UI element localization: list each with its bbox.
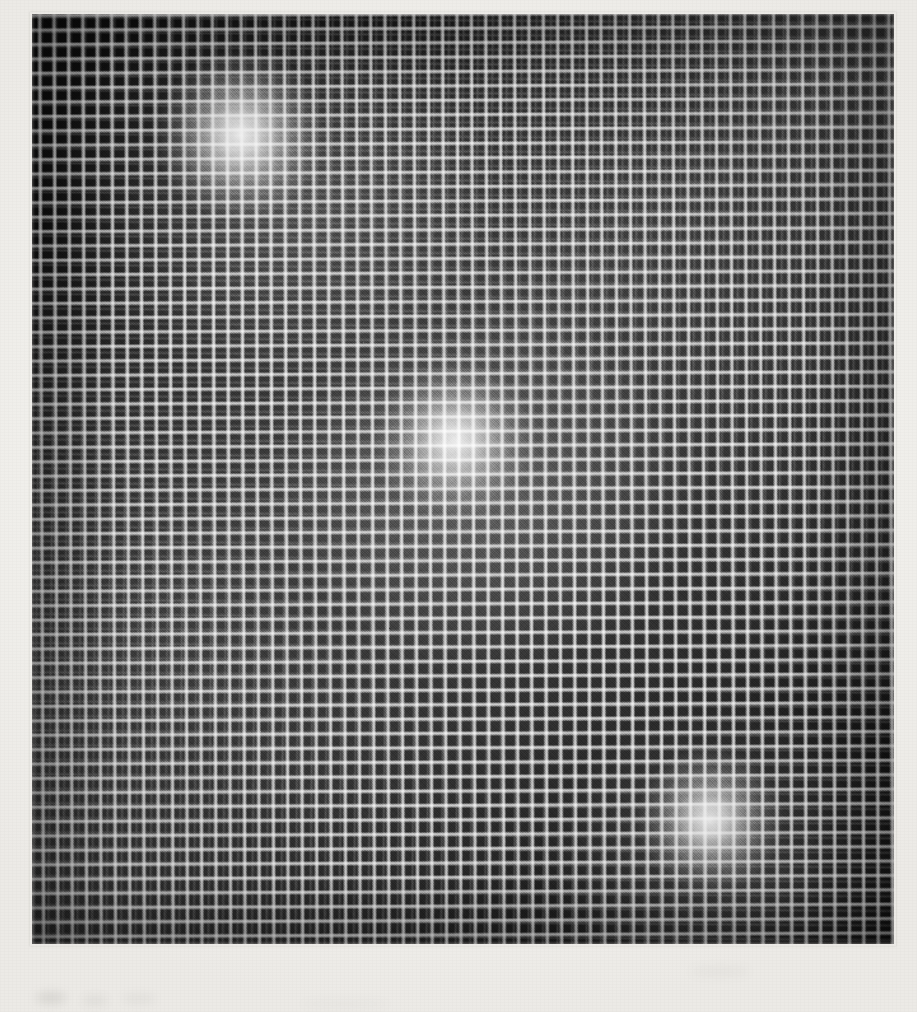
page-canvas bbox=[0, 0, 917, 1012]
mesh-base-tone bbox=[32, 14, 894, 944]
grid-mesh-photograph bbox=[32, 14, 894, 944]
